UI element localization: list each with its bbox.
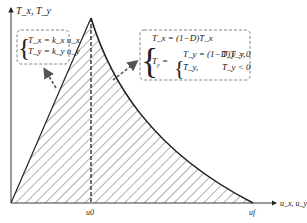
right-eq-line2a-cond: T̄_y > 0	[222, 49, 251, 60]
right-eq-ty-label: Ty =	[152, 56, 168, 71]
left-equations: T_x = k_x u_x T_y = k_y u_y	[28, 35, 80, 57]
right-eq-line2b-cond: T̄_y < 0	[222, 62, 251, 73]
right-eq-line2b: T̄_y,	[183, 62, 198, 73]
y-axis-label: T_x, T_y	[16, 5, 52, 16]
tick-label-uf: uf	[249, 208, 257, 217]
arrow-to-left-box	[45, 70, 56, 88]
tick-label-u0: u0	[86, 208, 94, 217]
x-axis-label: u_x, u_y	[280, 199, 307, 208]
right-eq-line1: T_x = (1−D)T̄_x	[152, 33, 213, 44]
left-eq-line1: T_x = k_x u_x	[28, 35, 80, 46]
left-eq-line2: T_y = k_y u_y	[28, 46, 80, 57]
